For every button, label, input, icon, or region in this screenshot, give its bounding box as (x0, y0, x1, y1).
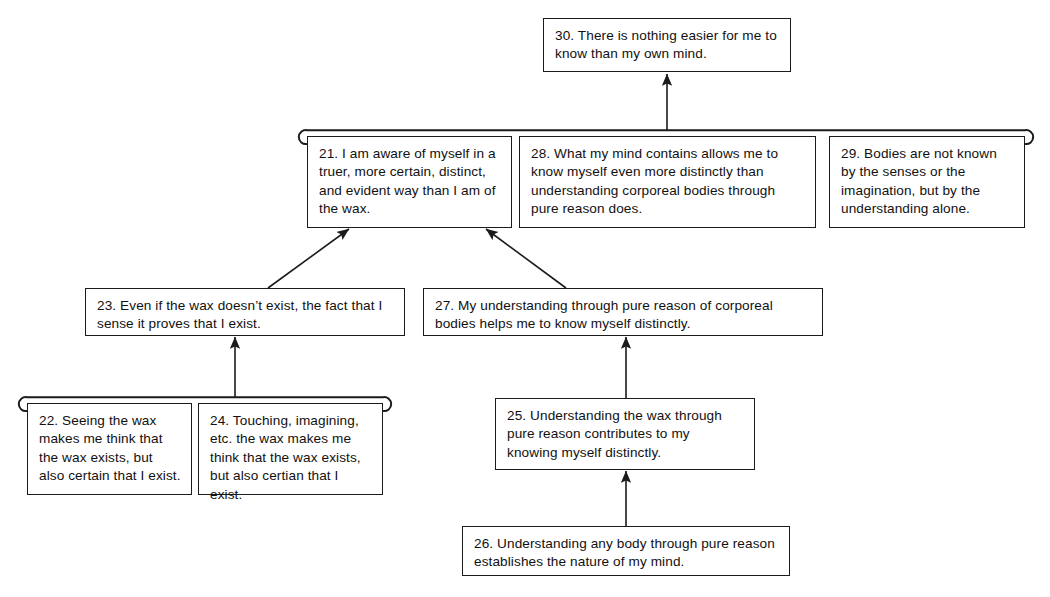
statement-box-25[interactable]: 25. Understanding the wax through pure r… (495, 398, 755, 470)
statement-box-21[interactable]: 21. I am aware of myself in a truer, mor… (307, 136, 512, 228)
edge-27-to-21 (486, 229, 566, 288)
statement-box-24[interactable]: 24. Touching, imagining, etc. the wax ma… (198, 403, 383, 495)
statement-box-28[interactable]: 28. What my mind contains allows me to k… (519, 136, 816, 228)
statement-box-23[interactable]: 23. Even if the wax doesn’t exist, the f… (85, 288, 405, 336)
argument-diagram-canvas: 30. There is nothing easier for me to kn… (0, 0, 1050, 597)
edge-23-to-21 (268, 229, 349, 288)
statement-box-30[interactable]: 30. There is nothing easier for me to kn… (543, 18, 791, 72)
statement-box-27[interactable]: 27. My understanding through pure reason… (423, 288, 823, 336)
statement-box-29[interactable]: 29. Bodies are not known by the senses o… (829, 136, 1025, 228)
statement-box-26[interactable]: 26. Understanding any body through pure … (462, 526, 790, 576)
statement-box-22[interactable]: 22. Seeing the wax makes me think that t… (27, 403, 192, 495)
